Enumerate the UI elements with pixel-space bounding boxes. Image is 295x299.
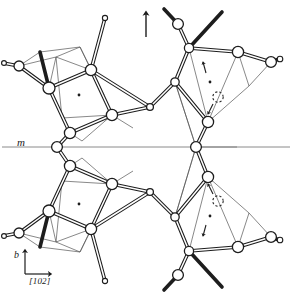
bondfill-ur-8 bbox=[150, 82, 175, 107]
edge-ur-2 bbox=[208, 52, 249, 122]
bondfill-ul-6 bbox=[91, 18, 105, 70]
edge-ul-10 bbox=[19, 47, 80, 66]
edge-ll-10 bbox=[19, 233, 80, 252]
atom-small-left-upper bbox=[2, 61, 7, 66]
atom-lr-c bbox=[232, 241, 243, 252]
edge-ur-diag bbox=[208, 52, 238, 122]
atom-ur-a bbox=[173, 19, 184, 30]
atom-ll-f bbox=[147, 189, 154, 196]
atom-lr-a bbox=[173, 270, 184, 281]
atom-ul-e bbox=[64, 127, 75, 138]
partial-site-upper-right bbox=[213, 92, 223, 102]
bond-stub-lr-diag bbox=[189, 251, 222, 287]
mirror-plane-label: m bbox=[17, 137, 25, 148]
displacement-arrow-lr-lower bbox=[203, 225, 206, 236]
atom-small-top-stub bbox=[102, 15, 107, 20]
atom-small-left-lower bbox=[2, 234, 7, 239]
axis-b-label: b bbox=[14, 250, 19, 260]
atom-mirror-left bbox=[52, 142, 63, 153]
atom-ll-d bbox=[106, 178, 117, 189]
atom-ul-d bbox=[106, 109, 117, 120]
edge-ul-3 bbox=[19, 57, 56, 66]
atom-ur-b bbox=[184, 43, 193, 52]
atom-ul-c bbox=[85, 64, 96, 75]
atom-small-bottom-stub bbox=[102, 278, 107, 283]
atom-ll-b bbox=[43, 205, 55, 217]
bondfill-ul-5 bbox=[70, 115, 112, 133]
atom-ul-b bbox=[43, 82, 55, 94]
bondfill-ul-3 bbox=[49, 70, 91, 88]
axis-direction-label: [102] bbox=[29, 277, 51, 286]
edge-center-lr bbox=[150, 147, 196, 217]
bondfill-ll-5 bbox=[70, 166, 112, 184]
crystal-structure-figure: m b [102] bbox=[0, 0, 295, 299]
atom-ur-d bbox=[266, 57, 277, 68]
edge-ll-3 bbox=[19, 233, 56, 242]
atom-ll-c bbox=[85, 223, 96, 234]
bondfill-ur-5 bbox=[175, 48, 189, 82]
atom-ul-a bbox=[14, 61, 24, 71]
atom-small-ur-tip bbox=[277, 56, 283, 62]
bondfill-ll-3 bbox=[49, 211, 91, 229]
site-dot-upper-right bbox=[209, 81, 212, 84]
displacement-arrow-ur-upper bbox=[203, 62, 206, 73]
edge-lr-2 bbox=[208, 177, 249, 247]
atom-ur-f bbox=[171, 78, 179, 86]
atom-lr-e bbox=[202, 171, 213, 182]
displacement-arrow-lr-upper bbox=[208, 184, 213, 194]
atom-ul-f bbox=[147, 104, 154, 111]
displacement-arrows-group bbox=[203, 62, 213, 236]
bond-stub-ur-diag bbox=[189, 12, 222, 48]
edge-lr-diag bbox=[208, 177, 238, 247]
atom-lr-d bbox=[266, 232, 277, 243]
atom-ll-a bbox=[14, 228, 24, 238]
structure-drawing bbox=[0, 0, 295, 299]
atom-ur-c bbox=[232, 46, 243, 57]
bondfill-ll-6 bbox=[91, 229, 105, 281]
atom-mirror-right bbox=[191, 142, 202, 153]
site-dot-upper-left bbox=[78, 94, 81, 97]
bondfill-lr-5 bbox=[175, 217, 189, 251]
atom-lr-b bbox=[184, 246, 193, 255]
bondfill-lr-8 bbox=[150, 192, 175, 217]
edge-center-ur bbox=[150, 82, 196, 147]
atom-ll-e bbox=[64, 160, 75, 171]
atom-small-lr-tip bbox=[277, 237, 283, 243]
axis-indicator bbox=[25, 250, 51, 274]
atom-lr-f bbox=[171, 213, 179, 221]
site-dot-lower-right bbox=[209, 215, 212, 218]
atom-ur-e bbox=[202, 116, 213, 127]
site-dot-lower-left bbox=[78, 203, 81, 206]
